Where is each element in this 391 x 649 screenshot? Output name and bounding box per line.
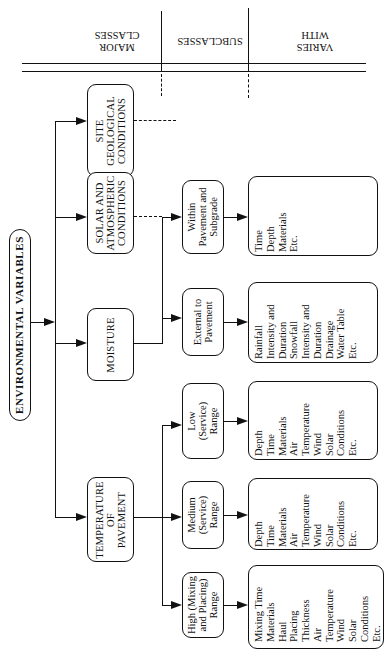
varies-item: Water Table (335, 304, 347, 359)
varies-list-external: RainfallIntensity andDurationSnowfallInt… (253, 304, 359, 359)
varies-box-high: Mixing TimeMaterialsHaulPlacingThickness… (248, 565, 384, 649)
subclass-box-medium: Medium (Service) Range (182, 481, 224, 549)
connector-temperature (55, 517, 77, 518)
varies-list-medium: DepthTimeMaterialsAirTemperatureWindSola… (253, 494, 359, 547)
connector-solar (55, 217, 77, 218)
varies-item: Placing (288, 587, 300, 642)
varies-item: Thickness (300, 587, 312, 642)
arrow-medium-varies-icon (237, 511, 248, 519)
connector-moisture (55, 343, 77, 344)
varies-item: Time (253, 212, 265, 252)
moisture-sub-spine (162, 217, 163, 344)
varies-item: Etc. (371, 587, 383, 642)
root-label: ENVIRONMENTAL VARIABLES (14, 236, 26, 414)
varies-item: Rainfall (253, 304, 265, 359)
header-rule-top (22, 63, 366, 64)
varies-item: Air (288, 403, 300, 456)
subclass-label-within: Within Pavement and Subgrade (186, 187, 219, 246)
subclass-box-high: High (Mixing and Placing) Range (182, 572, 224, 638)
varies-item: Intensity and (300, 304, 312, 359)
subclass-label-external: External to Pavement (192, 299, 214, 345)
arrow-low-icon (171, 421, 182, 429)
varies-item: Solar (347, 587, 359, 642)
major-label-moisture: MOISTURE (105, 317, 116, 372)
arrow-medium-icon (171, 513, 182, 521)
major-box-solar: SOLAR AND ATMOSPHERIC CONDITIONS (87, 172, 134, 254)
header-divider-1 (161, 11, 162, 72)
varies-item: Wind (312, 494, 324, 547)
arrow-external-varies-icon (237, 318, 248, 326)
moisture-out-connector (134, 343, 162, 344)
varies-item: Temperature (300, 403, 312, 456)
arrow-moisture-icon (76, 339, 87, 347)
connector-low-varies (224, 421, 238, 422)
header-subclasses: SUBCLASSES (172, 35, 248, 47)
varies-item: Depth (253, 494, 265, 547)
varies-item: Conditions (335, 403, 347, 456)
varies-item: Time (265, 403, 277, 456)
arrow-solar-icon (76, 213, 87, 221)
connector-within-varies (224, 217, 238, 218)
varies-item: Haul (277, 587, 289, 642)
subclass-label-low: Low (Service) Range (186, 402, 219, 440)
arrow-high-varies-icon (237, 601, 248, 609)
header-varies-with: VARIES WITH (290, 30, 340, 53)
arrow-low-varies-icon (237, 417, 248, 425)
varies-box-within: TimeDepthMaterialsEtc. (248, 176, 378, 256)
varies-item: Materials (277, 212, 289, 252)
varies-item: Duration (312, 304, 324, 359)
varies-item: Conditions (335, 494, 347, 547)
varies-item: Wind (312, 403, 324, 456)
subclass-label-high: High (Mixing and Placing) Range (186, 576, 219, 634)
varies-item: Snowfall (288, 304, 300, 359)
connector-site (55, 121, 77, 122)
temperature-sub-spine (162, 425, 163, 606)
header-divider-2-dashed (248, 74, 249, 98)
header-divider-1-dashed (161, 74, 162, 96)
varies-item: Materials (277, 494, 289, 547)
major-label-temperature: TEMPERATURE OF PAVEMENT (94, 481, 127, 558)
header-rule-bottom (22, 71, 366, 72)
varies-item: Materials (265, 587, 277, 642)
varies-box-low: DepthTimeMaterialsAirTemperatureWindSola… (248, 381, 378, 460)
main-spine (55, 121, 56, 518)
root-arrow-icon (44, 318, 55, 326)
connector-high-varies (224, 605, 238, 606)
varies-item: Mixing Time (253, 587, 265, 642)
header-varies-line1: VARIES (290, 42, 340, 54)
header-varies-line2: WITH (290, 30, 340, 42)
varies-item: Air (288, 494, 300, 547)
varies-item: Etc. (347, 403, 359, 456)
varies-item: Depth (265, 212, 277, 252)
varies-item: Intensity and (265, 304, 277, 359)
varies-box-medium: DepthTimeMaterialsAirTemperatureWindSola… (248, 478, 378, 550)
header-major-line2: CLASSES (92, 30, 142, 42)
varies-item: Etc. (347, 304, 359, 359)
varies-item: Air (312, 587, 324, 642)
varies-box-external: RainfallIntensity andDurationSnowfallInt… (248, 282, 378, 363)
header-subclasses-label: SUBCLASSES (172, 35, 248, 47)
connector-medium-varies (224, 515, 238, 516)
arrow-within-varies-icon (237, 213, 248, 221)
subclass-box-within: Within Pavement and Subgrade (182, 180, 224, 254)
root-connector (31, 322, 45, 323)
solar-dashed-connector (134, 216, 162, 217)
site-dashed-connector (134, 120, 176, 121)
temperature-out-connector (134, 517, 162, 518)
arrow-high-icon (171, 601, 182, 609)
major-label-solar: SOLAR AND ATMOSPHERIC CONDITIONS (94, 175, 127, 250)
varies-item: Etc. (288, 212, 300, 252)
varies-item: Temperature (324, 587, 336, 642)
varies-item: Etc. (347, 494, 359, 547)
major-box-moisture: MOISTURE (87, 308, 134, 381)
varies-item: Wind (335, 587, 347, 642)
arrow-temperature-icon (76, 513, 87, 521)
varies-item: Drainage (324, 304, 336, 359)
varies-item: Temperature (300, 494, 312, 547)
varies-item: Duration (277, 304, 289, 359)
varies-item: Solar (324, 403, 336, 456)
arrow-within-icon (171, 213, 182, 221)
connector-external-varies (224, 322, 238, 323)
varies-item: Depth (253, 403, 265, 456)
header-major-classes: MAJOR CLASSES (92, 30, 142, 53)
